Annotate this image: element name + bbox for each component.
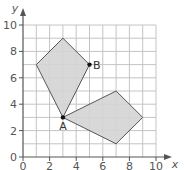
point-a-label: A [59, 120, 67, 133]
y-axis-arrow-icon [20, 8, 26, 16]
y-tick-0: 0 [10, 151, 17, 164]
y-tick-6: 6 [10, 72, 17, 85]
y-tick-10: 10 [3, 19, 17, 32]
x-tick-6: 6 [99, 160, 106, 170]
x-tick-4: 4 [73, 160, 80, 170]
axes [23, 12, 168, 157]
coordinate-diagram: 0 2 4 6 8 10 0 2 4 6 8 10 x y A B [0, 0, 184, 170]
point-b-label: B [93, 59, 101, 72]
y-tick-2: 2 [10, 125, 17, 138]
grid [23, 25, 156, 157]
kite-upper-shape [36, 38, 89, 117]
y-axis-label: y [11, 2, 19, 15]
x-tick-10: 10 [149, 160, 163, 170]
y-tick-4: 4 [10, 98, 17, 111]
point-a-marker [61, 115, 65, 119]
tick-marks [19, 25, 156, 161]
x-axis-label: x [171, 158, 179, 170]
x-tick-2: 2 [46, 160, 53, 170]
y-tick-8: 8 [10, 45, 17, 58]
x-tick-8: 8 [126, 160, 133, 170]
kite-lower-shape [63, 91, 143, 144]
point-b-marker [87, 62, 91, 66]
x-tick-0: 0 [20, 160, 27, 170]
